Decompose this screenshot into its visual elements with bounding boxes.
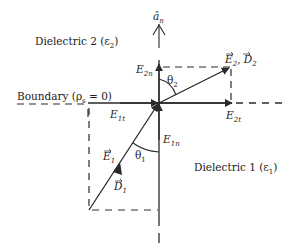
e1n-label: E1n xyxy=(162,133,180,148)
e2t-label: E2t xyxy=(225,109,241,124)
e2n-label: E2n xyxy=(135,63,153,78)
dielectric-1-label: Dielectric 1 (ε1) xyxy=(194,161,277,176)
svg-text:E2, D2: E2, D2 xyxy=(224,53,257,68)
theta2-label: θ2 xyxy=(167,74,178,89)
diagram-canvas: Dielectric 2 (ε2) Dielectric 1 (ε1) Boun… xyxy=(0,0,290,248)
e2-d2-label: E2, D2 xyxy=(224,52,257,68)
d1-label: D1 xyxy=(113,179,127,195)
e1t-label: E1t xyxy=(109,108,125,123)
theta1-label: θ1 xyxy=(135,149,146,164)
e1-label: E1 xyxy=(102,149,115,165)
svg-text:E1: E1 xyxy=(102,150,115,165)
svg-text:D1: D1 xyxy=(113,180,127,195)
dielectric-2-label: Dielectric 2 (ε2) xyxy=(35,35,118,50)
boundary-label: Boundary (ρs = 0) xyxy=(17,90,112,105)
normal-unit-vector-label: ân xyxy=(153,10,164,25)
